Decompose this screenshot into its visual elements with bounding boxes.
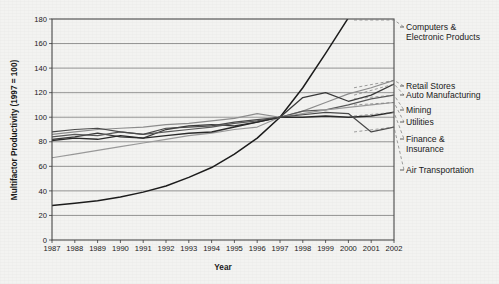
y-tick-label: 180 <box>34 15 47 24</box>
y-tick-label: 60 <box>39 162 47 171</box>
x-tick-label: 2000 <box>340 244 357 253</box>
legend-labels: Computers &Electronic ProductsRetail Sto… <box>406 22 481 175</box>
legend-label: Mining <box>406 105 432 115</box>
legend-label: Auto Manufacturing <box>406 90 481 100</box>
x-axis-tick-labels: 1987198819891990199119921993199419951996… <box>44 244 403 253</box>
legend-label: Finance & <box>406 134 445 144</box>
y-tick-label: 40 <box>39 187 47 196</box>
x-tick-label: 1999 <box>317 244 334 253</box>
y-tick-label: 160 <box>34 39 47 48</box>
x-tick-label: 1987 <box>44 244 61 253</box>
x-tick-label: 1998 <box>294 244 311 253</box>
legend-label: Insurance <box>406 144 444 154</box>
y-tick-label: 20 <box>39 211 47 220</box>
x-tick-label: 1992 <box>158 244 175 253</box>
x-tick-label: 1988 <box>66 244 83 253</box>
x-tick-label: 1989 <box>89 244 106 253</box>
y-axis-tick-labels: 020406080100120140160180 <box>34 15 47 245</box>
x-tick-label: 1990 <box>112 244 129 253</box>
x-tick-label: 1995 <box>226 244 243 253</box>
y-tick-label: 140 <box>34 64 47 73</box>
y-tick-label: 0 <box>43 236 47 245</box>
x-axis-title: Year <box>214 263 232 272</box>
x-tick-label: 1997 <box>272 244 289 253</box>
legend-label: Utilities <box>406 117 434 127</box>
legend-label: Air Transportation <box>406 165 474 175</box>
legend-leader-lines <box>354 20 404 170</box>
series-line <box>52 95 394 137</box>
series-line <box>52 112 394 140</box>
legend-leader-line <box>354 127 404 170</box>
y-axis-title: Multifactor Productivity (1997 = 100) <box>10 60 19 201</box>
x-tick-label: 1993 <box>180 244 197 253</box>
x-tick-label: 1994 <box>203 244 220 253</box>
chart-figure: 1987198819891990199119921993199419951996… <box>0 0 499 284</box>
legend-leader-line <box>354 20 404 27</box>
series-line <box>52 80 394 134</box>
y-tick-label: 100 <box>34 113 47 122</box>
y-tick-label: 120 <box>34 88 47 97</box>
x-tick-label: 2001 <box>363 244 380 253</box>
x-tick-label: 1991 <box>135 244 152 253</box>
legend-label: Electronic Products <box>406 32 480 42</box>
y-tick-label: 80 <box>39 137 47 146</box>
x-tick-label: 1996 <box>249 244 266 253</box>
series-lines <box>52 0 394 206</box>
legend-tickmarks <box>400 27 404 170</box>
multifactor-productivity-line-chart: 1987198819891990199119921993199419951996… <box>0 0 499 284</box>
legend-label: Computers & <box>406 22 456 32</box>
x-tick-label: 2002 <box>386 244 403 253</box>
series-line <box>52 0 394 206</box>
